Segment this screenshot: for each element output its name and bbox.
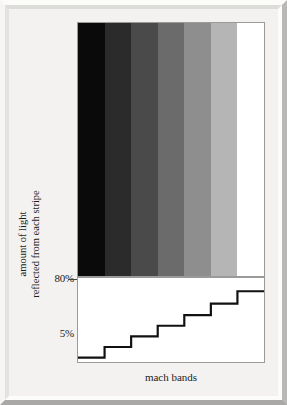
step-function-plot	[78, 278, 264, 362]
stripe-6	[211, 23, 238, 276]
stripe-7-lightest	[237, 23, 264, 276]
y-axis-tick-label-top: 80%	[40, 272, 74, 284]
y-axis-title-line2: reflected from each stripe	[29, 179, 42, 309]
y-axis-tick-label-bottom: 5%	[40, 327, 74, 339]
y-axis-tick-mark-top	[68, 279, 77, 280]
stripe-1-darkest	[78, 23, 105, 276]
mach-bands-figure: 80% 5% amount of light reflected from ea…	[0, 0, 287, 405]
stripe-5	[184, 23, 211, 276]
stripe-4	[158, 23, 185, 276]
y-axis-title: amount of light reflected from each stri…	[16, 179, 42, 309]
grayscale-stripes-panel	[77, 22, 265, 277]
figure-caption: mach bands	[77, 371, 265, 383]
stripe-2	[105, 23, 132, 276]
y-axis-title-line1: amount of light	[16, 179, 29, 309]
stripe-3	[131, 23, 158, 276]
step-function-line	[78, 291, 264, 357]
step-function-chart	[77, 277, 265, 363]
